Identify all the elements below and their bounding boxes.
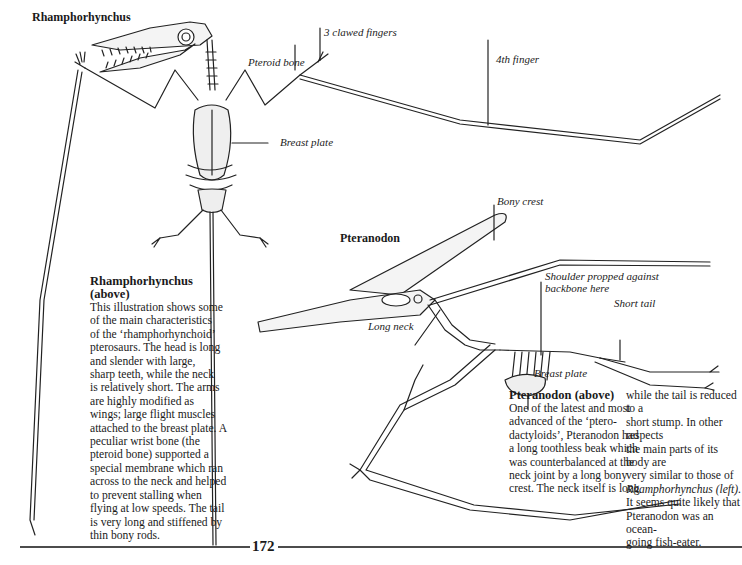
caption-line: It seems quite likely that [626, 496, 742, 509]
caption-line: This illustration shows some [90, 301, 260, 314]
label-breast-plate-rhamph: Breast plate [280, 136, 333, 148]
pteranodon-heading: Pteranodon [340, 231, 400, 246]
caption-line: across to the neck and helped [90, 475, 260, 488]
caption-line: going fish-eater. [626, 536, 742, 549]
caption-line: thin bony rods. [90, 529, 260, 542]
caption-line: while the tail is reduced to a [626, 389, 742, 416]
label-short-tail: Short tail [614, 297, 655, 309]
pteranodon-caption-title: Pteranodon (above) [509, 389, 614, 402]
label-shoulder: Shoulder propped against backbone here [545, 270, 659, 294]
label-breast-plate-pteranodon: Breast plate [534, 367, 587, 379]
label-shoulder-line1: Shoulder propped against [545, 270, 659, 282]
caption-line: and slender with large, [90, 355, 260, 368]
caption-line: of the main characteristics [90, 314, 260, 327]
label-pteroid-bone: Pteroid bone [248, 56, 305, 68]
page-number: 172 [252, 538, 275, 555]
caption-line: very similar to those of [626, 469, 742, 482]
label-bony-crest: Bony crest [497, 195, 543, 207]
caption-line: of the ‘rhamphorhynchoid’ [90, 328, 260, 341]
caption-line: to prevent stalling when [90, 489, 260, 502]
caption-line: Pteranodon was an ocean- [626, 510, 742, 537]
caption-line: Rhamphorhynchus (left). [626, 483, 742, 496]
caption-line: is relatively short. The arms [90, 381, 260, 394]
label-long-neck: Long neck [368, 320, 414, 332]
caption-title-line2: (above) [90, 288, 260, 301]
label-4th-finger: 4th finger [496, 53, 539, 65]
caption-line: wings; large flight muscles [90, 408, 260, 421]
rhamphorhynchus-heading: Rhamphorhynchus [32, 10, 131, 25]
caption-line: short stump. In other respects [626, 416, 742, 443]
pteranodon-caption-col2: while the tail is reduced to a short stu… [626, 389, 742, 550]
caption-line: sharp teeth, while the neck [90, 368, 260, 381]
label-shoulder-line2: backbone here [545, 282, 659, 294]
caption-line: attached to the breast plate. A [90, 422, 260, 435]
caption-line: are highly modified as [90, 395, 260, 408]
caption-line: the main parts of its body are [626, 443, 742, 470]
label-3-clawed-fingers: 3 clawed fingers [324, 26, 397, 38]
caption-line: is very long and stiffened by [90, 516, 260, 529]
caption-line: peculiar wrist bone (the [90, 435, 260, 448]
rhamphorhynchus-caption: Rhamphorhynchus (above) This illustratio… [90, 275, 260, 542]
caption-line: pterosaurs. The head is long [90, 341, 260, 354]
caption-line: pteroid bone) supported a [90, 448, 260, 461]
caption-body: This illustration shows some of the main… [90, 301, 260, 542]
caption-line: flying at low speeds. The tail [90, 502, 260, 515]
caption-line: special membrane which ran [90, 462, 260, 475]
